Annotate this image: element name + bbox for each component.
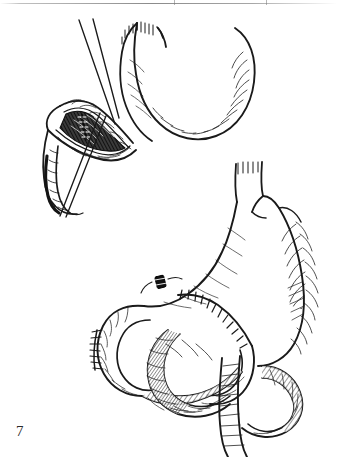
ligature-clip — [141, 275, 182, 293]
figure-number: 7 — [16, 424, 24, 439]
traction-suture-right — [93, 19, 119, 118]
stomach-lesser-curvature — [120, 23, 152, 141]
lower-panel-illustration — [90, 162, 318, 457]
upper-panel-illustration — [43, 19, 254, 217]
stomach-greater-curvature — [134, 23, 254, 139]
esophagus-cut-edge — [238, 162, 258, 174]
stomach-greater-curvature-lower — [258, 196, 304, 366]
esophagus-right-wall — [261, 162, 263, 196]
serosa-hatching — [153, 52, 249, 134]
esophagus-left-wall — [235, 164, 237, 202]
stomach-hatching-lower — [270, 224, 305, 353]
jejunal-loop-d-right — [238, 356, 247, 457]
afferent-loop-outer — [97, 306, 144, 396]
closed-stump-suture-line — [90, 330, 103, 370]
atlas-page: 7 — [0, 0, 337, 457]
surgical-illustration — [0, 0, 337, 457]
stomach-lesser-curvature-lower — [144, 202, 237, 307]
anastomosis-suture-line — [180, 290, 247, 348]
